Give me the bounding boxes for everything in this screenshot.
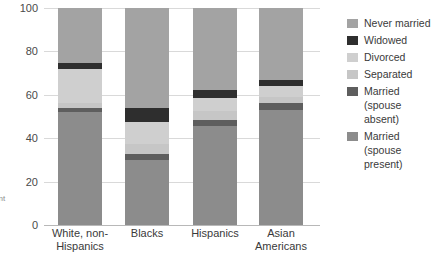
legend-swatch-icon <box>347 19 358 28</box>
legend-item[interactable]: Married (spouse absent) <box>347 84 438 126</box>
bar-segment[interactable] <box>125 154 169 159</box>
y-axis-tick-label-20: 20 <box>26 176 38 188</box>
bar-segment[interactable] <box>259 97 303 104</box>
legend-item[interactable]: Married (spouse present) <box>347 129 438 171</box>
legend-item[interactable]: Divorced <box>347 50 438 64</box>
x-axis-category-label: Asian Americans <box>241 227 321 253</box>
y-axis-tick-label-80: 80 <box>26 45 38 57</box>
legend-swatch-icon <box>347 87 358 96</box>
bar-segment[interactable] <box>193 8 237 90</box>
legend-item[interactable]: Never married <box>347 16 438 30</box>
bar-segment[interactable] <box>259 80 303 87</box>
y-axis-tick-label-100: 100 <box>20 2 38 14</box>
legend-item-label: Married (spouse absent) <box>364 84 438 126</box>
legend-swatch-icon <box>347 36 358 45</box>
bar-segment[interactable] <box>193 98 237 111</box>
bar-stack[interactable] <box>125 8 169 225</box>
bar-segment[interactable] <box>58 112 102 225</box>
bar-segment[interactable] <box>259 103 303 110</box>
chart-legend: Never marriedWidowedDivorcedSeparatedMar… <box>347 16 438 174</box>
legend-item-label: Widowed <box>364 33 407 47</box>
bar-segment[interactable] <box>58 63 102 68</box>
bar-segment[interactable] <box>259 8 303 80</box>
bar-segment[interactable] <box>125 122 169 144</box>
legend-item-label: Never married <box>364 16 431 30</box>
bar-segment[interactable] <box>58 108 102 112</box>
y-axis-tick-label-0: 0 <box>32 219 38 231</box>
bar-stack[interactable] <box>58 8 102 225</box>
gridline-0 <box>44 225 320 226</box>
margin-note-line-0: s <box>0 178 16 192</box>
legend-item[interactable]: Widowed <box>347 33 438 47</box>
bar-segment[interactable] <box>193 120 237 127</box>
legend-item-label: Married (spouse present) <box>364 129 438 171</box>
bar-segment[interactable] <box>125 108 169 122</box>
bar-segment[interactable] <box>193 126 237 225</box>
bar-segment[interactable] <box>58 8 102 63</box>
legend-swatch-icon <box>347 53 358 62</box>
y-axis-tick-label-60: 60 <box>26 89 38 101</box>
bar-segment[interactable] <box>58 103 102 107</box>
margin-note-line-2: u <box>0 206 16 220</box>
legend-swatch-icon <box>347 70 358 79</box>
legend-item-label: Divorced <box>364 50 405 64</box>
y-axis-tick-label-40: 40 <box>26 132 38 144</box>
bar-segment[interactable] <box>125 160 169 225</box>
bar-segment[interactable] <box>193 111 237 120</box>
bar-segment[interactable] <box>259 110 303 225</box>
legend-item[interactable]: Separated <box>347 67 438 81</box>
margin-note-line-1: ent <box>0 192 16 206</box>
bar-stack[interactable] <box>259 8 303 225</box>
legend-item-label: Separated <box>364 67 412 81</box>
bar-segment[interactable] <box>58 69 102 104</box>
bar-segment[interactable] <box>125 8 169 108</box>
bar-stack[interactable] <box>193 8 237 225</box>
bar-segment[interactable] <box>193 90 237 98</box>
bar-segment[interactable] <box>125 144 169 155</box>
margin-note-fragments: s ent u <box>0 178 16 220</box>
legend-swatch-icon <box>347 132 358 141</box>
chart-plot-area: 020406080100White, non- HispanicsBlacksH… <box>44 8 320 225</box>
bar-segment[interactable] <box>259 86 303 97</box>
